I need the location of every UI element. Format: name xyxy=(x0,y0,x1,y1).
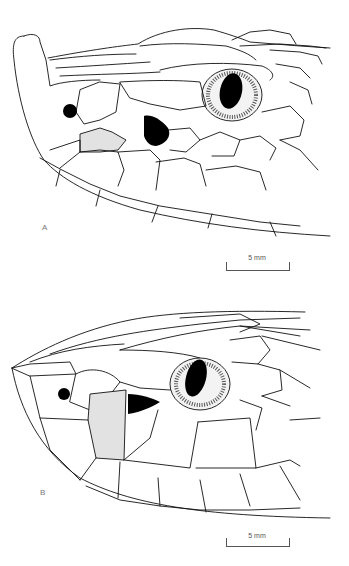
snake-head-illustration-a xyxy=(0,0,349,280)
scale-bar-b xyxy=(226,538,290,547)
panel-label-a: A xyxy=(42,223,47,232)
figure-panel-b: B 5 mm xyxy=(0,290,349,566)
scale-bar-a xyxy=(226,262,290,271)
snake-head-illustration-b xyxy=(0,290,349,566)
panel-label-b: B xyxy=(40,488,45,497)
scale-bar-a-label: 5 mm xyxy=(226,254,288,261)
scale-bar-b-label: 5 mm xyxy=(226,532,288,539)
figure-panel-a: A 5 mm xyxy=(0,0,349,280)
